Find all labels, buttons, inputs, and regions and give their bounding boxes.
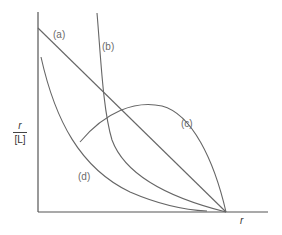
label-a: (a) xyxy=(53,30,65,40)
curve-d xyxy=(41,57,207,211)
y-label-numerator: r xyxy=(11,120,29,132)
label-b: (b) xyxy=(102,42,114,52)
label-d: (d) xyxy=(78,172,90,182)
label-c: (c) xyxy=(181,119,193,129)
x-axis-label: r xyxy=(240,215,243,226)
y-axis-label: r [L] xyxy=(11,120,29,146)
curve-c xyxy=(80,105,226,213)
y-label-denominator: [L] xyxy=(11,133,29,146)
curve-a xyxy=(38,28,226,212)
scatchard-plot xyxy=(0,0,282,235)
